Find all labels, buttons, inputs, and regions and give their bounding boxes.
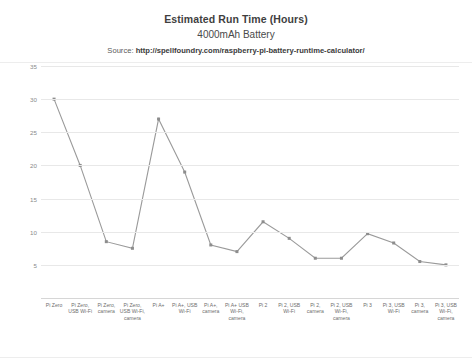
x-axis-category-label: Pi 3, camera xyxy=(407,302,433,315)
x-axis-category-label: Pi 2 xyxy=(250,302,276,308)
gridline xyxy=(41,99,459,100)
chart-source: Source: http://spellfoundry.com/raspberr… xyxy=(0,45,472,57)
x-axis-category-labels: Pi ZeroPi Zero, USB Wi-FiPi Zero, camera… xyxy=(41,300,459,360)
chart-subtitle: 4000mAh Battery xyxy=(0,28,472,42)
x-axis-category-label: Pi 3 xyxy=(355,302,381,308)
x-axis-category-label: Pi 3, USB Wi-Fi, camera xyxy=(433,302,459,321)
data-point-marker xyxy=(235,250,238,253)
plot-area xyxy=(41,66,459,298)
data-point-marker xyxy=(418,260,421,263)
gridline xyxy=(41,232,459,233)
y-tick-label: 15 xyxy=(15,196,37,203)
gridline xyxy=(41,199,459,200)
chart-container: Estimated Run Time (Hours) 4000mAh Batte… xyxy=(0,0,472,362)
data-point-marker xyxy=(288,237,291,240)
gridline xyxy=(41,265,459,266)
series-polyline xyxy=(54,99,446,265)
y-tick-label: 10 xyxy=(15,229,37,236)
x-axis-category-label: Pi A+ xyxy=(146,302,172,308)
data-point-marker xyxy=(105,240,108,243)
data-point-marker xyxy=(262,220,265,223)
x-axis-category-label: Pi Zero, USB Wi-Fi xyxy=(67,302,93,315)
x-axis-category-label: Pi Zero, USB Wi-Fi, camera xyxy=(119,302,145,321)
source-url: http://spellfoundry.com/raspberry-pi-bat… xyxy=(136,46,365,55)
gridline xyxy=(41,66,459,67)
y-tick-label: 35 xyxy=(15,63,37,70)
x-axis-line xyxy=(41,298,459,299)
x-axis-category-label: Pi A+, USB Wi-Fi xyxy=(172,302,198,315)
bottom-divider xyxy=(0,357,472,358)
title-block: Estimated Run Time (Hours) 4000mAh Batte… xyxy=(0,12,472,57)
x-axis-category-label: Pi 2, camera xyxy=(302,302,328,315)
y-tick-label: 20 xyxy=(15,162,37,169)
series-line-chart xyxy=(41,66,459,298)
y-tick-label: 25 xyxy=(15,129,37,136)
data-point-marker xyxy=(131,247,134,250)
data-point-marker xyxy=(314,257,317,260)
gridline xyxy=(41,165,459,166)
source-label: Source: xyxy=(107,46,133,55)
x-axis-category-label: Pi A+, camera xyxy=(198,302,224,315)
data-point-marker xyxy=(340,257,343,260)
data-point-marker xyxy=(392,241,395,244)
x-axis-category-label: Pi 2, USB Wi-Fi, camera xyxy=(328,302,354,321)
gridline xyxy=(41,132,459,133)
y-tick-label: 30 xyxy=(15,96,37,103)
x-axis-category-label: Pi Zero xyxy=(41,302,67,308)
x-axis-category-label: Pi 3, USB Wi-Fi xyxy=(381,302,407,315)
x-axis-category-label: Pi 2, USB Wi-Fi xyxy=(276,302,302,315)
y-tick-label: 5 xyxy=(15,262,37,269)
top-divider xyxy=(0,62,472,63)
data-point-marker xyxy=(157,118,160,121)
data-point-marker xyxy=(183,171,186,174)
x-axis-category-label: Pi Zero, camera xyxy=(93,302,119,315)
x-axis-category-label: Pi A+ USB Wi-Fi, camera xyxy=(224,302,250,321)
data-point-marker xyxy=(209,243,212,246)
chart-title: Estimated Run Time (Hours) xyxy=(0,12,472,26)
